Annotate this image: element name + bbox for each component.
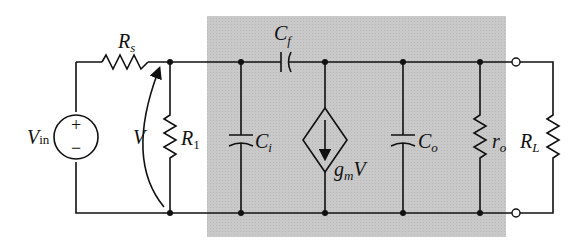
wire-left [76,62,170,213]
circuit-diagram: + − Vin Rs V R1 Cf Ci gmV Co ro RL [0,0,587,245]
plus-sign: + [71,115,81,135]
output-terminal-bottom [512,209,520,217]
minus-sign: − [71,138,81,158]
r1-label: R1 [180,127,200,152]
rs-label: Rs [117,30,135,55]
device-shaded-region [207,16,506,237]
schematic-svg: + − Vin Rs V R1 Cf Ci gmV Co ro RL [0,0,587,245]
v-arrow-icon [143,72,164,207]
rl-label: RL [519,130,539,155]
v-label: V [133,126,148,148]
vin-label: Vin [27,126,50,148]
output-terminal-top [512,58,520,66]
r1-resistor-icon [164,62,176,213]
rs-resistor-icon [102,55,148,69]
